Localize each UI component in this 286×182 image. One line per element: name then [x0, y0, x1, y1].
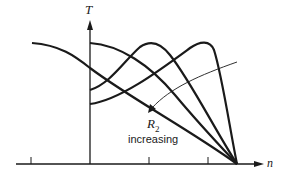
- curve-2: [90, 43, 237, 164]
- annotation-r: R: [147, 116, 155, 131]
- x-axis-arrow-icon: [254, 161, 264, 167]
- curve-3: [90, 43, 237, 164]
- annotation-symbol: R2: [147, 116, 159, 134]
- y-axis-arrow-icon: [87, 20, 93, 30]
- diagram-svg: [0, 0, 286, 182]
- y-axis-label: T: [85, 2, 92, 18]
- curve-4: [90, 43, 237, 164]
- x-axis-label: n: [267, 156, 273, 171]
- curve-1: [32, 43, 237, 164]
- annotation-text: increasing: [128, 133, 178, 145]
- diagram-canvas: T n R2 increasing: [0, 0, 286, 182]
